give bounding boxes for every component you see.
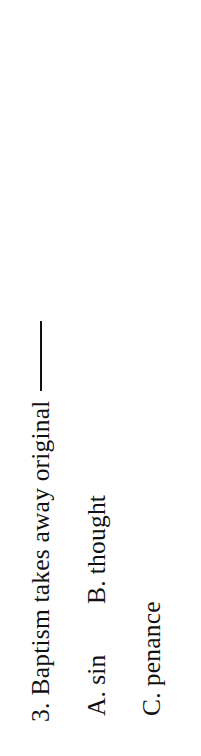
option-a-text: sin [82,654,111,684]
options-row-ab: A.sinB.thought [84,495,110,716]
option-b-label: B. [82,580,111,604]
options-row-c: C.penance [139,601,165,716]
option-a-label: A. [82,691,111,716]
rotated-page-stage: 3.Baptism takes away original A.sinB.tho… [0,0,201,756]
document-body: 3.Baptism takes away original A.sinB.tho… [0,0,201,756]
option-b[interactable]: B.thought [82,495,111,604]
question-number: 3. [28,702,54,722]
question-line: 3.Baptism takes away original [28,321,54,722]
option-c-label: C. [137,692,166,716]
answer-blank-rule [40,321,42,391]
option-a[interactable]: A.sin [84,604,110,716]
option-c[interactable]: C.penance [137,601,166,716]
scanned-page: 3.Baptism takes away original A.sinB.tho… [0,0,201,756]
option-c-text: penance [137,601,166,686]
question-stem: Baptism takes away original [26,400,55,695]
option-b-text: thought [82,495,111,574]
